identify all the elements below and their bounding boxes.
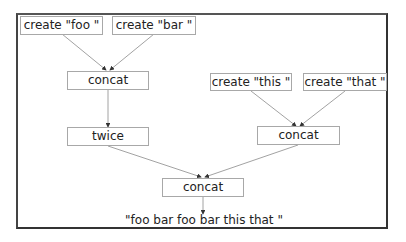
node-concat-1: concat bbox=[67, 71, 149, 90]
edge-twice-concat3 bbox=[108, 146, 201, 177]
node-create-foo: create "foo " bbox=[20, 16, 103, 35]
edge-bar-concat1 bbox=[110, 34, 154, 70]
node-concat-2: concat bbox=[257, 126, 340, 145]
node-create-that: create "that " bbox=[303, 73, 387, 91]
node-concat-3: concat bbox=[162, 178, 244, 197]
node-create-this: create "this " bbox=[210, 73, 292, 91]
node-twice: twice bbox=[67, 127, 149, 146]
node-create-bar: create "bar " bbox=[112, 16, 196, 35]
edges-layer bbox=[0, 0, 406, 242]
edge-concat2-concat3 bbox=[205, 145, 298, 177]
edge-this-concat2 bbox=[251, 91, 296, 126]
edge-that-concat2 bbox=[300, 91, 345, 126]
output-text: "foo bar foo bar this that " bbox=[120, 213, 288, 228]
edge-foo-concat1 bbox=[62, 34, 106, 70]
